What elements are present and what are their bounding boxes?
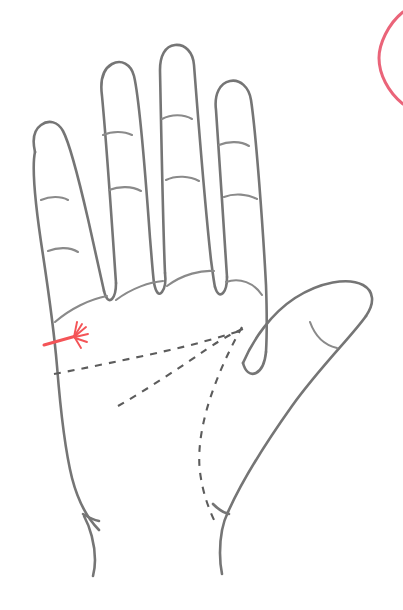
hand-illustration: [0, 0, 403, 610]
red-pointer-marker: [44, 322, 88, 348]
ring-crease-lower: [109, 187, 141, 191]
valley-pinky-ring: [104, 283, 116, 300]
middle-crease-upper: [162, 115, 192, 119]
hand-outline-left-edge: [34, 152, 99, 530]
knuckle-crease-middle: [167, 271, 214, 286]
knuckle-creases-group: [55, 271, 262, 322]
pinky-crease-lower: [48, 248, 78, 252]
thumb-outline-upper: [243, 281, 372, 363]
knuckle-crease-pinky: [55, 296, 107, 322]
pink-arc-path: [379, 12, 403, 104]
wrist-notch-right: [213, 504, 229, 514]
valley-middle-index: [215, 277, 227, 294]
middle-finger-outline: [160, 45, 215, 287]
index-crease-upper: [219, 142, 249, 146]
hand-outline-group: [34, 45, 372, 576]
wrist-right: [220, 512, 228, 574]
valley-ring-middle: [154, 273, 165, 294]
index-finger-outline: [216, 81, 267, 352]
pink-arc-marker: [379, 12, 403, 104]
middle-crease-lower: [166, 177, 199, 181]
pinky-crease-upper: [41, 197, 68, 200]
ring-crease-upper: [103, 132, 132, 135]
finger-creases-group: [41, 115, 337, 348]
thumb-crease: [310, 322, 337, 348]
heart-line: [54, 330, 243, 374]
illustration-canvas: Palm anatomy line drawing with annotatio…: [0, 0, 403, 610]
thumb-outline-lower: [228, 316, 366, 512]
index-crease-lower: [224, 195, 257, 199]
ring-finger-outline: [101, 62, 154, 283]
red-pointer-shaft: [44, 336, 76, 345]
knuckle-crease-index: [226, 280, 262, 295]
head-line: [118, 329, 243, 406]
palm-lines-group: [54, 327, 243, 524]
